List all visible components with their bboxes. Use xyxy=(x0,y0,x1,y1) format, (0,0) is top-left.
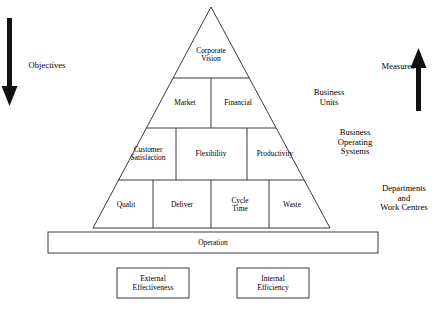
pyramid-cell-separators xyxy=(153,78,269,228)
internal-efficiency-box xyxy=(237,268,309,298)
operation-bar xyxy=(48,232,378,253)
external-effectiveness-box xyxy=(117,268,189,298)
pyramid-left-edge xyxy=(93,7,211,228)
pyramid-right-edge xyxy=(211,7,330,228)
performance-pyramid-svg xyxy=(0,0,444,311)
measures-arrow-up-icon xyxy=(411,48,427,111)
objectives-arrow-down-icon xyxy=(2,18,18,106)
diagram-canvas: Corporate Vision Market Financial Custom… xyxy=(0,0,444,311)
